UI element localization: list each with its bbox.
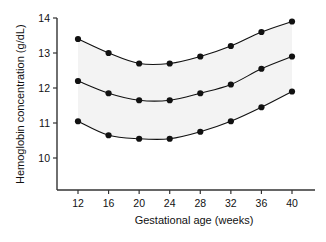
y-tick-label: 10: [28, 152, 50, 164]
x-tick-label: 20: [133, 197, 145, 209]
data-point-marker: [136, 97, 142, 103]
data-point-marker: [258, 29, 264, 35]
data-point-marker: [228, 118, 234, 124]
data-point-marker: [289, 18, 295, 24]
x-tick-label: 28: [194, 197, 206, 209]
x-tick-label: 40: [286, 197, 298, 209]
x-axis-title: Gestational age (weeks): [135, 214, 254, 226]
data-point-marker: [105, 90, 111, 96]
data-point-marker: [105, 50, 111, 56]
data-point-marker: [167, 136, 173, 142]
data-point-marker: [75, 118, 81, 124]
data-point-marker: [197, 53, 203, 59]
data-point-marker: [197, 90, 203, 96]
data-point-marker: [75, 78, 81, 84]
data-point-marker: [105, 132, 111, 138]
reference-band-fill: [78, 22, 292, 140]
data-point-marker: [75, 36, 81, 42]
data-point-marker: [197, 129, 203, 135]
x-tick-label: 36: [256, 197, 268, 209]
y-tick-label: 12: [28, 82, 50, 94]
x-tick-label: 16: [103, 197, 115, 209]
y-tick-label: 14: [28, 12, 50, 24]
y-tick-label: 13: [28, 47, 50, 59]
data-point-marker: [136, 60, 142, 66]
x-tick-label: 24: [164, 197, 176, 209]
data-point-marker: [289, 53, 295, 59]
data-point-marker: [258, 66, 264, 72]
data-point-marker: [258, 104, 264, 110]
data-point-marker: [228, 81, 234, 87]
reference-band: [78, 22, 292, 140]
y-axis-title: Hemoglobin concentration (g/dL): [14, 24, 26, 184]
x-tick-label: 32: [225, 197, 237, 209]
data-point-marker: [167, 60, 173, 66]
data-point-marker: [136, 136, 142, 142]
x-tick-label: 12: [72, 197, 84, 209]
data-point-marker: [228, 43, 234, 49]
chart-figure: 10111213141216202428323640 Gestational a…: [0, 0, 326, 242]
data-point-marker: [167, 97, 173, 103]
data-point-marker: [289, 88, 295, 94]
y-tick-label: 11: [28, 117, 50, 129]
